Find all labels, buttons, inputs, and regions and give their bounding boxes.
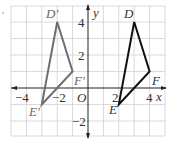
vertex-label-d: D [123,6,134,21]
vertex-label-e: E [108,102,117,117]
origin-label: O [77,90,87,105]
vertex-label-f-prime: F′ [73,73,85,88]
vertex-label-f: F [151,73,161,88]
y-axis-up-arrow-icon [86,4,90,10]
y-tick-neg2: −2 [72,114,86,129]
y-tick-2: 2 [78,48,85,63]
coordinate-plane: y x O −4 −2 2 4 4 2 −2 D E F D′ E′ F′ [0,0,170,142]
y-axis-label: y [91,5,99,20]
margin-dot [2,12,4,14]
vertex-label-d-prime: D′ [45,6,58,21]
y-tick-4: 4 [78,15,85,30]
vertex-label-e-prime: E′ [28,104,40,119]
x-tick-neg2: −2 [52,90,66,105]
x-axis-right-arrow-icon [161,86,167,90]
x-axis-label: x [155,89,162,104]
x-tick-4: 4 [146,90,153,105]
x-tick-neg4: −4 [15,90,29,105]
